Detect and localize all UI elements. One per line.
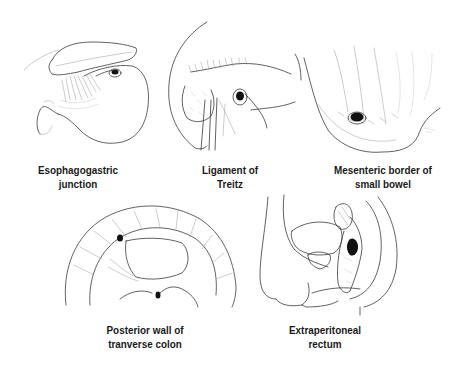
panel-rectum: Extraperitoneal rectum [250, 195, 450, 369]
rectum-illustration [250, 195, 450, 315]
panel-treitz: Ligament of Treitz [155, 0, 305, 195]
stomach-illustration [0, 0, 160, 160]
label-mesenteric: Mesenteric border of small bowel [319, 163, 448, 191]
transverse-colon-illustration [50, 195, 240, 315]
label-rectum: Extraperitoneal rectum [278, 323, 373, 351]
label-transverse-colon: Posterior wall of tranverse colon [98, 323, 193, 351]
panel-transverse-colon: Posterior wall of tranverse colon [50, 195, 240, 369]
panel-esophagogastric: Esophagogastric junction [0, 0, 160, 195]
treitz-illustration [155, 0, 305, 160]
small-bowel-illustration [300, 0, 465, 160]
label-esophagogastric: Esophagogastric junction [26, 163, 129, 191]
panel-mesenteric: Mesenteric border of small bowel [300, 0, 465, 195]
label-treitz: Ligament of Treitz [174, 163, 286, 191]
